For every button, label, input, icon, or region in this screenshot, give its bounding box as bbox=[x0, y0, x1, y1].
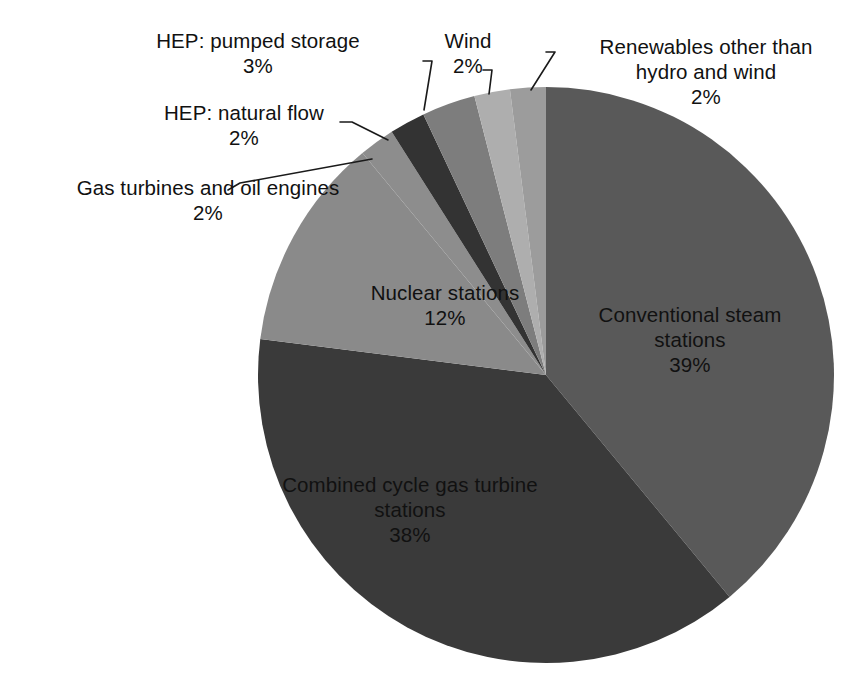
slice-label-conventional-steam-stations: Conventional steam stations 39% bbox=[575, 302, 805, 377]
slice-label-combined-cycle-gas-turbine-stations: Combined cycle gas turbine stations 38% bbox=[240, 472, 580, 547]
slice-label-nuclear-stations: Nuclear stations 12% bbox=[320, 280, 570, 330]
slice-label-gas-turbines-and-oil-engines: Gas turbines and oil engines 2% bbox=[18, 175, 398, 225]
pie-chart: HEP: pumped storage 3% Wind 2% Renewable… bbox=[0, 0, 863, 690]
slice-label-hep-pumped-storage: HEP: pumped storage 3% bbox=[108, 28, 408, 78]
slice-label-hep-natural-flow: HEP: natural flow 2% bbox=[110, 100, 378, 150]
slice-label-renewables-other-than-hydro-and-wind: Renewables other than hydro and wind 2% bbox=[556, 34, 856, 109]
slice-label-wind: Wind 2% bbox=[398, 28, 538, 78]
